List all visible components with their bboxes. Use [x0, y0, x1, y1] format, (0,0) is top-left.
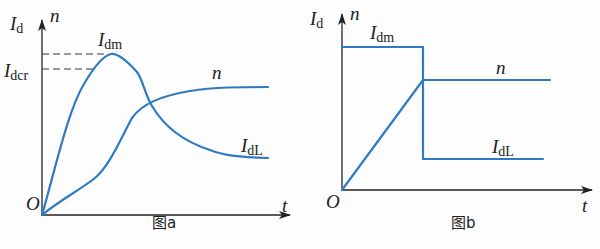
- y-axis-n-label-a: n: [50, 5, 60, 26]
- diagram-canvas: Id n Idm Idcr n IdL O t 图a Id n Idm n Id…: [0, 0, 600, 249]
- figure-a: Id n Idm Idcr n IdL O t 图a: [3, 5, 290, 232]
- idm-label-b: Idm: [369, 22, 394, 45]
- idl-label-a: IdL: [240, 135, 263, 158]
- n-curve-a: [42, 87, 268, 215]
- y-axis-label-b: Id: [309, 8, 323, 31]
- idl-label-b: IdL: [491, 136, 514, 159]
- x-axis-label-b: t: [582, 195, 588, 216]
- y-axis-label-a: Id: [9, 13, 23, 36]
- origin-label-b: O: [326, 191, 340, 212]
- idm-label-a: Idm: [97, 29, 122, 52]
- caption-b: 图b: [451, 214, 476, 232]
- x-axis-label-a: t: [282, 195, 288, 216]
- idcr-label-a: Idcr: [3, 60, 29, 83]
- origin-label-a: O: [26, 193, 40, 214]
- y-axis-n-label-b: n: [350, 3, 360, 24]
- n-curve-b: [342, 80, 550, 190]
- n-label-b: n: [496, 57, 506, 78]
- caption-a: 图a: [152, 214, 176, 232]
- figure-b: Id n Idm n IdL O t 图b: [309, 3, 592, 232]
- n-label-a: n: [212, 62, 222, 83]
- id-curve-b: [342, 47, 543, 159]
